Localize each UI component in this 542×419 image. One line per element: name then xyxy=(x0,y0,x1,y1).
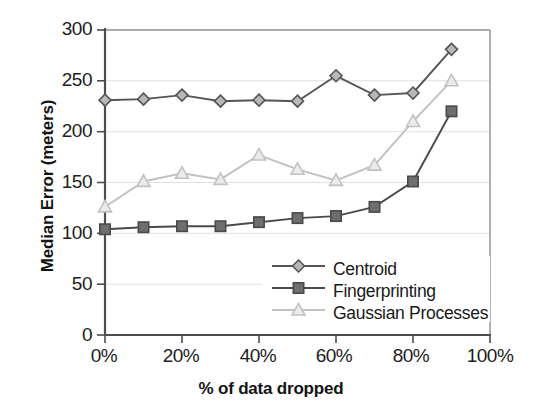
data-point xyxy=(215,221,225,231)
data-series-layer xyxy=(99,43,459,234)
data-point xyxy=(408,176,418,186)
gridlines xyxy=(105,81,490,284)
data-point xyxy=(100,224,110,234)
chart-container: Median Error (meters) % of data dropped … xyxy=(0,0,542,419)
data-point xyxy=(99,200,112,211)
legend-item-centroid[interactable]: Centroid xyxy=(333,259,397,280)
data-point xyxy=(446,106,456,116)
data-point xyxy=(176,89,188,101)
data-point xyxy=(330,70,342,82)
legend-item-gaussian-processes[interactable]: Gaussian Processes xyxy=(333,303,488,324)
data-point xyxy=(292,95,304,107)
data-point xyxy=(253,149,266,160)
data-point xyxy=(292,213,302,223)
data-point xyxy=(369,89,381,101)
data-point xyxy=(253,94,265,106)
legend-marker xyxy=(293,283,303,293)
data-point xyxy=(138,222,148,232)
data-point xyxy=(138,93,150,105)
series-line xyxy=(105,111,452,229)
data-point xyxy=(176,167,189,178)
legend-item-fingerprinting[interactable]: Fingerprinting xyxy=(333,281,436,302)
data-point xyxy=(215,95,227,107)
data-point xyxy=(254,217,264,227)
y-axis-ticks xyxy=(97,30,105,335)
data-point xyxy=(369,202,379,212)
series-centroid xyxy=(99,43,457,107)
series-line xyxy=(105,81,452,207)
series-fingerprinting xyxy=(100,106,457,234)
series-line xyxy=(105,49,452,101)
x-axis-ticks xyxy=(105,335,490,343)
series-gaussian-processes xyxy=(99,74,459,212)
data-point xyxy=(177,221,187,231)
data-point xyxy=(331,211,341,221)
data-point xyxy=(445,74,458,85)
data-point xyxy=(99,94,111,106)
plot-area xyxy=(0,0,542,419)
